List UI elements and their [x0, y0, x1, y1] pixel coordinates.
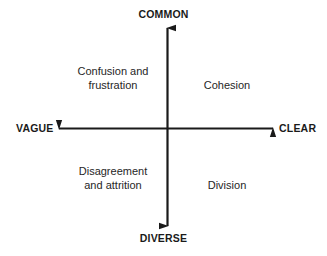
axis-label-common: COMMON — [0, 8, 327, 20]
quadrant-label-bottom-left: Disagreement and attrition — [53, 164, 173, 192]
quadrant-label-top-left: Confusion and frustration — [53, 64, 173, 92]
quadrant-label-top-right: Cohesion — [172, 78, 282, 92]
quadrant-label-bottom-right: Division — [172, 178, 282, 192]
axis-label-clear: CLEAR — [279, 122, 316, 134]
axis-label-diverse: DIVERSE — [0, 232, 327, 244]
axis-label-vague: VAGUE — [16, 122, 54, 134]
quadrant-diagram: COMMON DIVERSE VAGUE CLEAR Confusion and… — [0, 0, 327, 256]
